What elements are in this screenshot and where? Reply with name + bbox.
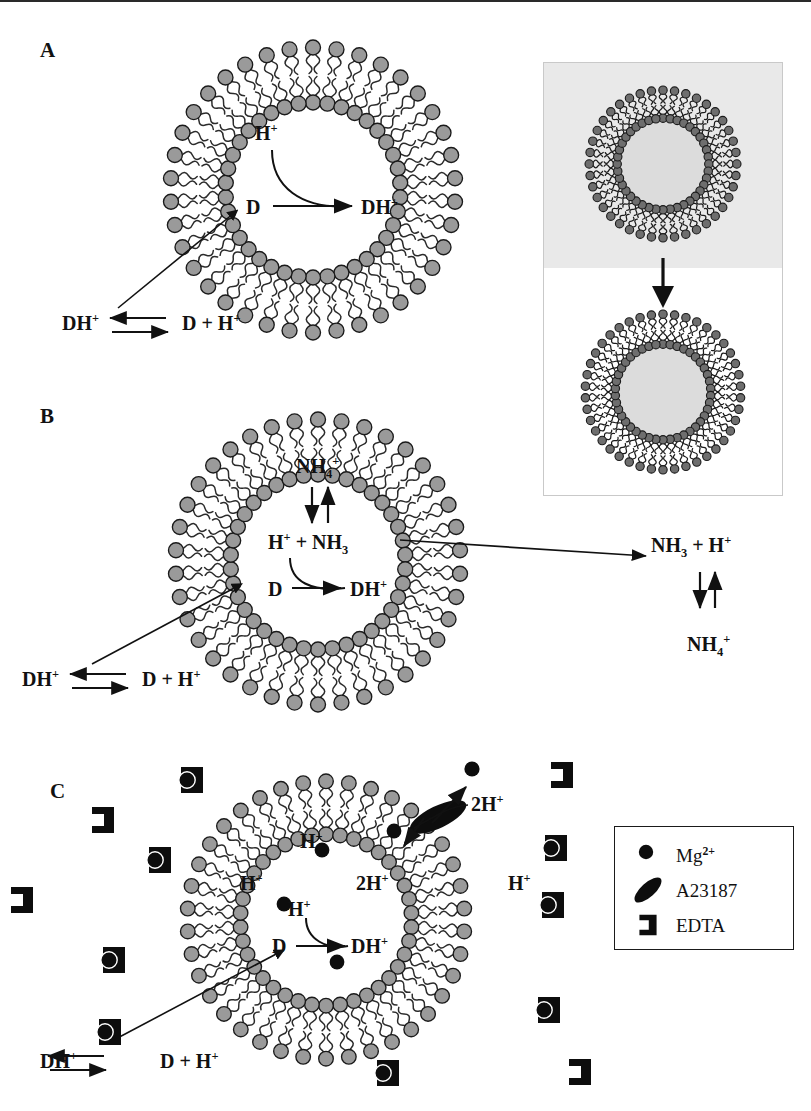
phospholipid <box>636 452 646 470</box>
panel-b-ammonia-proton-label: H+ + NH3 <box>268 531 348 554</box>
inset-liposome-top <box>585 86 741 242</box>
inset-liposome-bottom <box>581 310 745 474</box>
lipid-head <box>218 70 233 85</box>
lipid-head <box>221 204 236 219</box>
phospholipid <box>365 291 388 323</box>
phospholipid <box>723 171 740 180</box>
phospholipid <box>184 879 216 896</box>
lipid-head <box>296 1050 311 1065</box>
phospholipid <box>636 90 646 107</box>
phospholipid <box>381 70 408 100</box>
lipid-head <box>305 997 320 1012</box>
panel-c-proton-label-2: H+ <box>240 872 263 895</box>
lipid-head <box>333 997 348 1012</box>
panel-c-two-proton-label-inner: 2H+ <box>356 872 389 895</box>
lipid-head <box>168 543 183 558</box>
lipid-head <box>168 566 183 581</box>
lipid-head <box>259 48 274 63</box>
edta-free-2 <box>551 762 573 788</box>
phospholipid <box>184 944 216 961</box>
lipid-head <box>647 233 655 241</box>
phospholipid <box>659 456 667 474</box>
phospholipid <box>724 160 741 168</box>
phospholipid <box>581 394 599 402</box>
phospholipid <box>704 108 719 123</box>
phospholipid <box>234 1007 260 1036</box>
lipid-head <box>583 405 591 413</box>
panel-b-ammonium-inside-label: NH4+ <box>296 455 339 478</box>
lipid-head <box>446 968 461 983</box>
phospholipid <box>583 404 601 413</box>
phospholipid <box>287 676 303 710</box>
phospholipid <box>191 477 222 502</box>
phospholipid <box>186 105 217 130</box>
phospholipid <box>253 791 276 822</box>
phospholipid <box>234 803 260 832</box>
phospholipid <box>168 566 202 581</box>
phospholipid <box>180 901 213 916</box>
lipid-head <box>636 90 644 98</box>
phospholipid <box>217 994 245 1021</box>
phospholipid <box>401 638 430 666</box>
phospholipid <box>680 221 690 238</box>
lipid-head <box>184 879 199 894</box>
phospholipid <box>659 310 667 328</box>
edta-bracket-shape <box>11 887 33 913</box>
phospholipid <box>192 962 224 983</box>
lipid-head <box>682 90 690 98</box>
phospholipid <box>647 311 656 329</box>
lipid-head <box>259 317 274 332</box>
phospholipid <box>401 458 430 486</box>
phospholipid <box>370 110 399 138</box>
panel-a-equation-left: DH+ <box>62 312 99 335</box>
phospholipid <box>615 443 629 460</box>
lipid-head <box>703 324 711 332</box>
phospholipid <box>723 148 740 157</box>
edta-bracket-shape <box>569 1059 591 1085</box>
lipid-head <box>615 452 623 460</box>
phospholipid <box>586 148 603 157</box>
phospholipid <box>347 299 367 332</box>
lipid-head <box>682 462 690 470</box>
lipid-head <box>404 1022 419 1037</box>
phospholipid <box>581 382 599 390</box>
lipid-head <box>591 349 599 357</box>
legend-item-label-edta: EDTA <box>676 915 725 937</box>
lipid-head <box>334 695 349 710</box>
phospholipid <box>651 106 660 123</box>
internal-mg-ion-1 <box>387 824 402 839</box>
phospholipid <box>215 905 248 920</box>
lipid-head <box>670 87 678 95</box>
phospholipid <box>223 652 250 682</box>
lipid-head <box>334 265 349 280</box>
phospholipid <box>259 48 279 81</box>
phospholipid <box>670 455 679 473</box>
phospholipid <box>720 181 737 191</box>
edta-mg-complex-4 <box>97 1019 121 1045</box>
lipid-head <box>393 175 408 190</box>
lipid-head <box>636 313 644 321</box>
edta-bracket-shape <box>92 807 114 833</box>
figure-canvas: A H+ D DH+ DH+ D + H+ B NH4+ H+ + NH3 D … <box>0 0 811 1111</box>
phospholipid <box>264 420 284 453</box>
phospholipid <box>192 857 224 878</box>
lipid-head <box>726 349 734 357</box>
panel-c-proton-label-outside: H+ <box>508 872 531 895</box>
phospholipid <box>205 547 239 562</box>
phospholipid <box>227 242 256 270</box>
phospholipid <box>408 105 439 130</box>
phospholipid <box>205 562 239 577</box>
lipid-head <box>398 442 413 457</box>
lipid-head <box>398 667 413 682</box>
lipid-head <box>393 70 408 85</box>
lipid-head <box>339 637 354 652</box>
lipid-head <box>296 776 311 791</box>
lipid-head <box>264 689 279 704</box>
lipid-head <box>364 782 379 797</box>
lipid-head <box>652 115 660 123</box>
phospholipid <box>168 543 202 558</box>
panel-c-drug-protonated-label: DH+ <box>351 935 388 958</box>
lipid-head <box>391 519 406 534</box>
phospholipid <box>175 233 208 255</box>
lipid-head <box>180 612 195 627</box>
